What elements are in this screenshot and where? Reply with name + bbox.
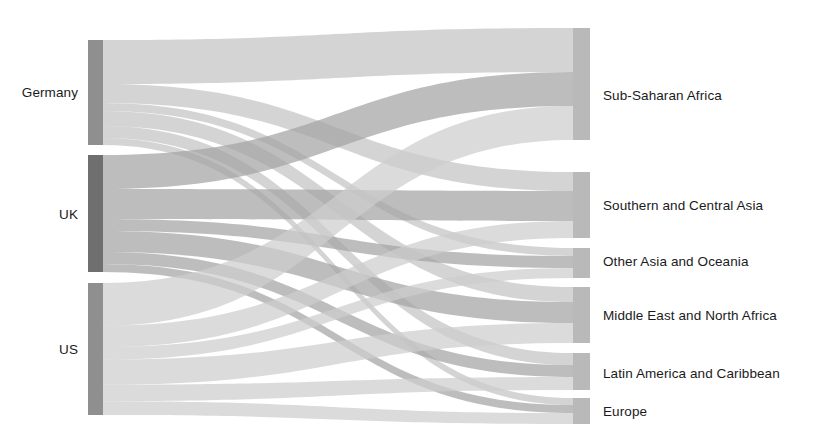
source-node-uk[interactable]: [88, 155, 103, 272]
flows-layer: [103, 28, 573, 424]
source-label-uk: UK: [0, 207, 78, 222]
target-node-lac[interactable]: [573, 353, 590, 390]
target-node-sca[interactable]: [573, 172, 590, 238]
target-label-sub-saharan-africa: Sub-Saharan Africa: [603, 88, 722, 103]
target-label-other-asia-and-oceania: Other Asia and Oceania: [603, 254, 749, 269]
target-label-middle-east-and-north-africa: Middle East and North Africa: [603, 308, 777, 323]
source-label-us: US: [0, 342, 78, 357]
source-node-germany[interactable]: [88, 40, 103, 145]
sankey-diagram: GermanyUKUS Sub-Saharan AfricaSouthern a…: [0, 0, 825, 447]
source-node-us[interactable]: [88, 283, 103, 415]
source-label-germany: Germany: [0, 85, 78, 100]
target-node-mena[interactable]: [573, 287, 590, 343]
target-node-oao[interactable]: [573, 248, 590, 278]
target-label-southern-and-central-asia: Southern and Central Asia: [603, 198, 763, 213]
target-label-latin-america-and-caribbean: Latin America and Caribbean: [603, 366, 780, 381]
target-label-europe: Europe: [603, 404, 647, 419]
target-node-eur[interactable]: [573, 398, 590, 424]
target-node-ssa[interactable]: [573, 28, 590, 140]
